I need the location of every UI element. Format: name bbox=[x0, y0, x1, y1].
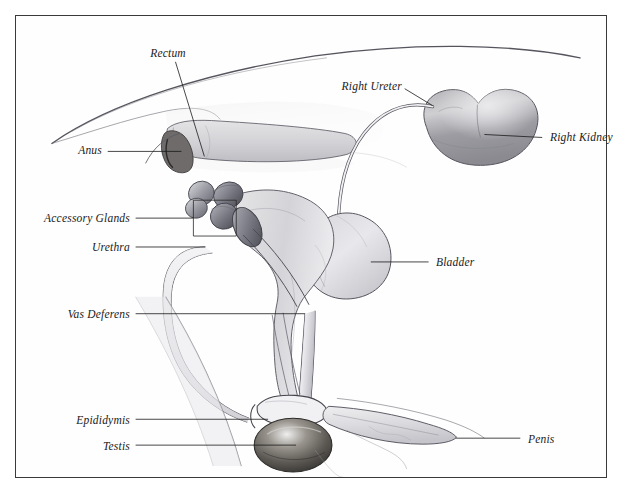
leader-line-right-ureter bbox=[405, 89, 433, 106]
label-penis[interactable]: Penis bbox=[528, 434, 555, 446]
label-bladder[interactable]: Bladder bbox=[436, 257, 474, 269]
figure-frame: RectumRight UreterRight KidneyAnusAccess… bbox=[15, 15, 607, 478]
figure-page: RectumRight UreterRight KidneyAnusAccess… bbox=[0, 0, 624, 503]
label-right-kidney[interactable]: Right Kidney bbox=[550, 132, 613, 144]
thigh-contour bbox=[136, 297, 242, 466]
label-anus[interactable]: Anus bbox=[78, 145, 102, 157]
kidney-organ bbox=[424, 89, 538, 165]
label-accessory-glands[interactable]: Accessory Glands bbox=[44, 213, 130, 225]
label-rectum[interactable]: Rectum bbox=[150, 48, 186, 60]
label-epididymis[interactable]: Epididymis bbox=[76, 415, 130, 427]
label-testis[interactable]: Testis bbox=[103, 441, 130, 453]
label-vas-deferens[interactable]: Vas Deferens bbox=[68, 309, 130, 321]
label-right-ureter[interactable]: Right Ureter bbox=[342, 81, 402, 93]
penis-organ bbox=[315, 398, 484, 477]
label-urethra[interactable]: Urethra bbox=[92, 242, 130, 254]
